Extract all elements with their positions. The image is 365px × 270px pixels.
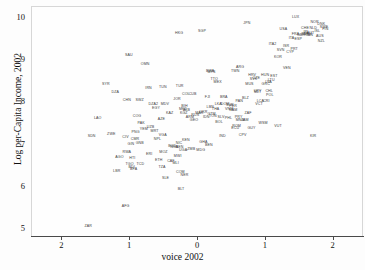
data-point-label: HRV	[248, 74, 256, 78]
data-point-label: VEN	[283, 67, 291, 71]
data-point-label: USA	[280, 28, 288, 32]
data-point-label: SWZ	[136, 100, 144, 104]
data-point-label: TZA	[159, 166, 166, 170]
y-tick-label: 8	[0, 96, 25, 106]
data-point-label: LBR	[113, 170, 120, 174]
data-point-label: CPV	[239, 134, 247, 138]
data-point-label: AUS	[316, 35, 324, 39]
data-point-label: IRN	[145, 87, 152, 91]
data-point-label: SLE	[162, 178, 169, 182]
data-point-label: IDN	[203, 117, 210, 121]
data-point-label: BOL	[215, 121, 223, 125]
data-point-label: RWA	[123, 151, 132, 155]
data-point-label: LBN	[207, 106, 214, 110]
data-point-label: PAK	[137, 123, 144, 127]
data-point-label: CRI	[263, 101, 270, 105]
x-tick-label: 2	[59, 240, 63, 250]
data-point-label: BLT	[178, 188, 185, 192]
data-point-label: NZL	[318, 40, 325, 44]
data-point-label: IND	[219, 135, 226, 139]
data-point-label: MRT	[151, 130, 159, 134]
data-point-label: GIN	[128, 143, 135, 147]
data-point-label: MUS	[245, 84, 253, 88]
y-tick-label: 5	[0, 223, 25, 233]
data-point-label: NAM	[229, 109, 237, 113]
data-point-label: JAM	[241, 119, 249, 123]
data-point-label: AZE	[158, 118, 165, 122]
y-tick-label: 7	[0, 139, 25, 149]
data-point-label: SDN	[88, 136, 96, 140]
data-point-label: MDV	[161, 103, 169, 107]
data-point-label: GNB	[136, 142, 144, 146]
data-point-label: NER	[180, 175, 188, 179]
data-point-label: AGO	[115, 156, 123, 160]
data-point-label: LKA	[215, 103, 222, 107]
data-point-label: VUT	[274, 125, 282, 129]
data-point-label: YEM	[140, 128, 148, 132]
data-point-label: TUN	[159, 87, 167, 91]
data-point-label: LAO	[94, 117, 102, 121]
data-point-label: GTM	[207, 113, 215, 117]
data-point-label: GUY	[247, 127, 255, 131]
data-point-label: ESP	[295, 39, 303, 43]
data-point-label: BLZ	[242, 97, 249, 101]
data-point-label: JPN	[243, 22, 250, 26]
data-point-label: SAU	[125, 54, 133, 58]
y-axis-ticks: 5678910	[0, 0, 31, 236]
data-point-label: ETH	[155, 159, 163, 163]
data-point-label: HUN	[261, 74, 269, 78]
data-point-label: MLI	[172, 162, 178, 166]
plot-area: SYRDZACHNSWZIRNTUNTURCOLCUBDZA2MDVEGYJOR…	[31, 6, 363, 236]
scatter-plot-figure: Log per-Capita Income, 2002 voice 2002 5…	[0, 0, 365, 270]
y-tick-label: 10	[0, 12, 25, 22]
data-point-label: WSM	[258, 123, 267, 127]
data-point-label: PHL	[225, 117, 232, 121]
x-tick-label: 0	[195, 240, 199, 250]
data-point-label: SVK	[250, 78, 258, 82]
x-axis-title: voice 2002	[0, 252, 365, 262]
data-point-label: FIN	[322, 28, 328, 32]
data-point-label: UGA	[179, 150, 187, 154]
data-point-label: FJI	[205, 96, 210, 100]
data-point-label: TCD	[137, 163, 145, 167]
data-point-label: BEN	[205, 144, 213, 148]
data-point-label: ARG	[236, 66, 244, 70]
data-point-label: CIV	[122, 136, 128, 140]
data-point-label: ZMB	[187, 148, 195, 152]
x-tick-label: 2	[330, 240, 334, 250]
data-point-label: VGA	[159, 134, 167, 138]
x-tick-label: 1	[127, 240, 131, 250]
data-point-label: MOZ	[159, 151, 167, 155]
data-point-label: KEN	[182, 139, 190, 143]
data-point-label: TWN	[231, 70, 239, 74]
data-point-label: HKG	[175, 32, 183, 36]
data-point-label: ERI	[146, 153, 152, 157]
data-point-label: CHN	[123, 99, 131, 103]
data-point-label: MLT	[254, 91, 261, 95]
data-point-label: MDG	[196, 149, 205, 153]
data-point-label: KIR	[310, 135, 316, 139]
data-point-label: BFA	[130, 168, 137, 172]
data-point-label: ISL	[314, 30, 320, 34]
data-point-label: OMN	[141, 63, 150, 67]
data-point-label: DZA	[112, 91, 120, 95]
data-point-label: CUB	[189, 93, 197, 97]
data-point-label: GEO	[190, 119, 198, 123]
data-point-label: ZAF	[245, 112, 252, 116]
data-point-label: HTI	[129, 157, 135, 161]
data-point-label: CYP	[286, 51, 294, 55]
data-point-label: VCT	[255, 103, 263, 107]
data-point-label: SYR	[102, 84, 110, 88]
data-point-label: POL	[266, 95, 274, 99]
data-point-label: MYS	[208, 71, 216, 75]
data-point-label: JOR	[173, 98, 181, 102]
data-point-label: CAN	[305, 34, 313, 38]
y-tick-label: 6	[0, 181, 25, 191]
data-point-label: SVN	[277, 49, 285, 53]
data-point-label: LVA	[265, 81, 272, 85]
data-point-label: PNG	[132, 131, 140, 135]
data-point-label: ITA	[289, 37, 295, 41]
data-point-label: UKR	[199, 112, 207, 116]
y-tick-label: 9	[0, 54, 25, 64]
data-point-label: ITA2	[269, 43, 277, 47]
